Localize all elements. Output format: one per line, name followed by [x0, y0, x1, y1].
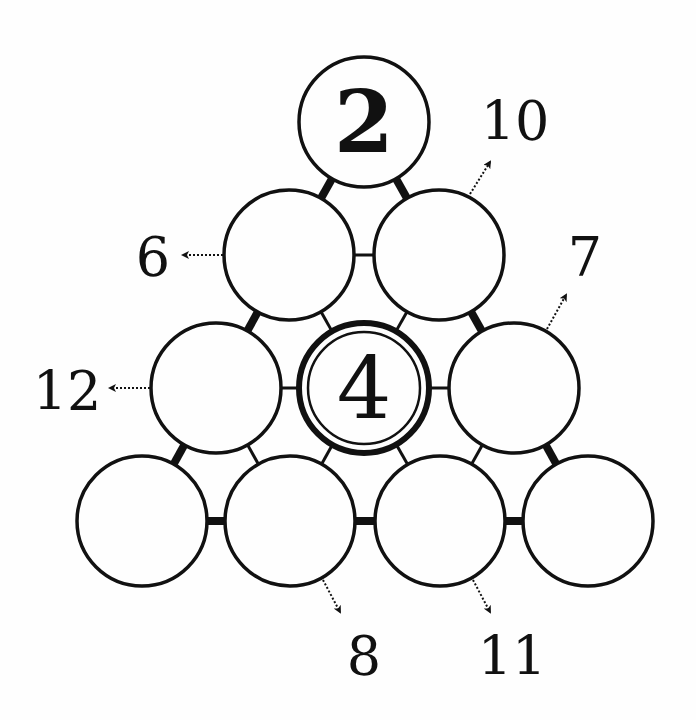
- clue-r4c2: 8: [323, 580, 381, 688]
- clue-number: 11: [478, 625, 547, 688]
- clue-r4c3: 11: [473, 580, 546, 688]
- pyramid-diagram: 24 106712811: [0, 0, 696, 720]
- ring: [375, 456, 505, 586]
- ring: [225, 456, 355, 586]
- clue-number: 12: [33, 360, 102, 423]
- circle-r3c2: 4: [299, 323, 429, 453]
- circle-value: 4: [337, 338, 392, 438]
- circle-r3c3[interactable]: [449, 323, 579, 453]
- clue-r2c2: 10: [470, 90, 549, 194]
- ring: [77, 456, 207, 586]
- connector-thick-r1c1-r2c1: [320, 178, 332, 200]
- connector-thick-r2c2-r3c3: [470, 311, 482, 333]
- clue-number: 8: [347, 625, 381, 688]
- connector-thick-r2c1-r3c1: [247, 311, 258, 332]
- clue-r3c3: 7: [547, 226, 602, 329]
- ring: [374, 190, 504, 320]
- ring: [523, 456, 653, 586]
- dotted-arrow-icon: [323, 580, 340, 612]
- puzzle-board: 24 106712811: [0, 0, 696, 720]
- dotted-arrow-icon: [473, 580, 490, 612]
- ring: [224, 190, 354, 320]
- circle-r1c1: 2: [299, 57, 429, 187]
- connector-thick-r1c1-r2c2: [395, 178, 407, 200]
- circle-r4c4[interactable]: [523, 456, 653, 586]
- circle-r2c2[interactable]: [374, 190, 504, 320]
- clue-r3c1: 12: [33, 360, 150, 423]
- clue-number: 7: [568, 226, 602, 289]
- connector-thick-r3c1-r4c1: [173, 444, 185, 465]
- dotted-arrow-icon: [547, 295, 566, 329]
- ring: [151, 323, 281, 453]
- connector-thin-r3c3-r4c3: [471, 444, 483, 465]
- circle-r4c2[interactable]: [225, 456, 355, 586]
- circle-value: 2: [334, 71, 394, 172]
- circle-r4c1[interactable]: [77, 456, 207, 586]
- connector-thick-r3c3-r4c4: [545, 444, 557, 465]
- circle-r3c1[interactable]: [151, 323, 281, 453]
- circle-r2c1[interactable]: [224, 190, 354, 320]
- ring: [449, 323, 579, 453]
- circle-nodes: 24: [77, 57, 653, 586]
- clue-number: 6: [136, 226, 170, 289]
- dotted-arrow-icon: [470, 162, 490, 194]
- clue-r2c1: 6: [136, 226, 223, 289]
- connector-thin-r3c1-r4c2: [247, 444, 259, 465]
- clue-number: 10: [481, 90, 550, 153]
- circle-r4c3[interactable]: [375, 456, 505, 586]
